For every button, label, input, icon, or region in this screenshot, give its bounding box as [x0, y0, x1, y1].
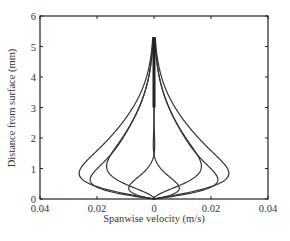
velocity-profile-curves [79, 37, 229, 199]
y-axis-ticks: 0123456 [31, 11, 268, 205]
y-tick-label: 1 [31, 164, 36, 175]
profile-curve [90, 37, 154, 199]
stokes-profile-chart: 0.040.0200.020.04 0123456 Spanwise veloc… [0, 0, 290, 241]
y-tick-label: 6 [31, 11, 36, 22]
x-tick-label: 0.04 [259, 203, 278, 214]
profile-curve [154, 37, 201, 199]
y-tick-label: 2 [31, 133, 36, 144]
profile-curve [107, 37, 154, 199]
profile-curve [154, 37, 229, 199]
y-tick-label: 0 [31, 194, 36, 205]
profile-curve [154, 37, 218, 199]
y-tick-label: 3 [31, 103, 36, 114]
y-axis-label: Distance from surface (mm) [6, 48, 18, 167]
y-tick-label: 4 [31, 72, 37, 83]
y-tick-label: 5 [31, 42, 36, 53]
profile-curve [79, 37, 154, 199]
x-axis-label: Spanwise velocity (m/s) [103, 213, 205, 225]
